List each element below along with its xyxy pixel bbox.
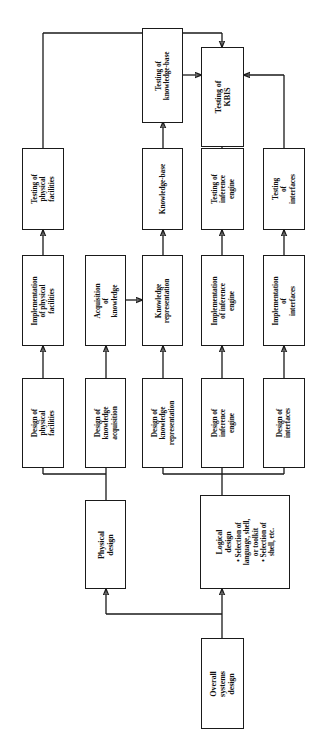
node-testing-physical-facilities[interactable]: Testing ofphysicalfacilities bbox=[22, 148, 64, 230]
node-implementation-physical-facilities[interactable]: Implementationof physicalfacilities bbox=[22, 255, 64, 346]
node-design-knowledge-representation[interactable]: Design ofknowledgerepresentation bbox=[142, 378, 183, 468]
node-acquisition-of-knowledge[interactable]: Acquisitionofknowledge bbox=[85, 255, 126, 346]
node-implementation-interfaces[interactable]: Implementationofinterfaces bbox=[263, 255, 305, 346]
node-testing-inference-engine[interactable]: Testing ofinferenceengine bbox=[201, 148, 244, 230]
node-design-physical-facilities[interactable]: Design ofphysicalfacilities bbox=[22, 378, 64, 468]
node-logical-design-bullets: • Selection of language, shell, or toolk… bbox=[236, 519, 277, 566]
node-overall-systems-design[interactable]: Overallsystemsdesign bbox=[201, 638, 244, 729]
node-design-knowledge-acquisition-label: Design ofknowledgeacquisition bbox=[93, 406, 118, 439]
node-testing-interfaces-label: Testingofinterfaces bbox=[272, 174, 297, 204]
node-testing-kbis[interactable]: Testing ofKBIS bbox=[201, 47, 244, 147]
node-implementation-physical-facilities-label: Implementationof physicalfacilities bbox=[31, 276, 56, 325]
node-testing-knowledge-base[interactable]: Testing ofknowledge-base bbox=[142, 28, 183, 123]
node-physical-design[interactable]: Physicaldesign bbox=[85, 500, 126, 589]
node-physical-design-label: Physicaldesign bbox=[96, 531, 114, 559]
node-design-interfaces-label: Design ofinterfaces bbox=[276, 408, 293, 438]
diagram-canvas: Testing ofKBIS Testing ofknowledge-base … bbox=[0, 0, 318, 742]
node-design-knowledge-representation-label: Design ofknowledgerepresentation bbox=[150, 401, 175, 445]
node-knowledge-base-label: Knowledge-base bbox=[158, 164, 166, 214]
node-overall-systems-design-label: Overallsystemsdesign bbox=[209, 671, 236, 697]
node-implementation-inference-engine[interactable]: Implementationof inferenceengine bbox=[201, 255, 244, 346]
node-design-physical-facilities-label: Design ofphysicalfacilities bbox=[31, 409, 56, 437]
node-implementation-inference-engine-label: Implementationof inferenceengine bbox=[210, 276, 235, 325]
node-implementation-interfaces-label: Implementationofinterfaces bbox=[272, 276, 297, 325]
node-knowledge-representation-label: Knowledgerepresentation bbox=[154, 278, 171, 322]
node-testing-kbis-label: Testing ofKBIS bbox=[213, 81, 231, 114]
node-testing-inference-engine-label: Testing ofinferenceengine bbox=[210, 174, 235, 204]
node-testing-knowledge-base-label: Testing ofknowledge-base bbox=[154, 51, 171, 100]
node-logical-design[interactable]: Logicaldesign • Selection of language, s… bbox=[200, 495, 290, 589]
node-design-inference-engine[interactable]: Design ofinferenceengine bbox=[201, 378, 244, 468]
node-testing-physical-facilities-label: Testing ofphysicalfacilities bbox=[31, 174, 56, 204]
node-design-knowledge-acquisition[interactable]: Design ofknowledgeacquisition bbox=[85, 378, 126, 468]
node-testing-interfaces[interactable]: Testingofinterfaces bbox=[263, 148, 305, 230]
node-acquisition-of-knowledge-label: Acquisitionofknowledge bbox=[93, 283, 118, 318]
node-knowledge-base[interactable]: Knowledge-base bbox=[142, 148, 183, 230]
node-knowledge-representation[interactable]: Knowledgerepresentation bbox=[142, 255, 183, 346]
node-design-inference-engine-label: Design ofinferenceengine bbox=[210, 409, 235, 437]
node-logical-design-label: Logicaldesign bbox=[215, 530, 233, 555]
node-design-interfaces[interactable]: Design ofinterfaces bbox=[263, 378, 305, 468]
